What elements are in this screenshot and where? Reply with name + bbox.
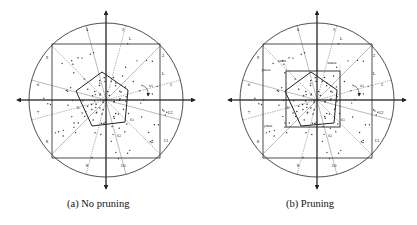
data-point xyxy=(72,100,73,101)
data-point xyxy=(315,121,317,123)
data-point xyxy=(71,60,72,61)
data-point xyxy=(77,57,78,58)
annotation-label: θ1 xyxy=(360,84,364,88)
sector-line xyxy=(86,26,106,100)
data-point xyxy=(113,101,115,103)
data-point xyxy=(102,102,104,104)
data-point xyxy=(278,105,279,106)
data-point xyxy=(326,82,328,84)
region-label: 3 xyxy=(122,27,125,32)
data-point xyxy=(146,60,147,61)
data-point xyxy=(72,64,73,65)
data-point xyxy=(66,90,67,91)
data-point xyxy=(318,91,320,93)
region-label: 2 xyxy=(162,53,165,58)
data-point xyxy=(289,122,290,123)
data-point xyxy=(365,124,366,125)
data-point xyxy=(334,108,336,110)
data-point xyxy=(347,60,348,61)
data-point xyxy=(75,132,76,133)
data-point xyxy=(115,152,116,153)
data-point xyxy=(99,85,101,87)
data-point xyxy=(58,131,59,132)
data-point xyxy=(302,157,303,158)
dashed-sector-line xyxy=(86,100,106,174)
annotation-label: S2 xyxy=(117,134,121,138)
region-label: 8 xyxy=(257,139,260,144)
data-point xyxy=(362,140,363,141)
data-point xyxy=(281,87,282,88)
data-point xyxy=(298,106,300,108)
dashed-sector-line xyxy=(297,100,317,174)
data-point xyxy=(139,90,140,91)
data-point xyxy=(373,109,374,110)
data-point xyxy=(115,85,117,87)
data-point xyxy=(43,98,44,99)
region-label: 9 xyxy=(297,163,300,168)
data-point xyxy=(125,96,126,97)
data-point xyxy=(269,131,270,132)
data-point xyxy=(111,126,112,127)
data-point xyxy=(350,90,351,91)
data-point xyxy=(87,88,89,90)
data-point xyxy=(294,78,295,79)
data-point xyxy=(336,96,337,97)
data-point xyxy=(71,116,72,117)
dashed-sector-line xyxy=(106,26,126,100)
data-point xyxy=(158,124,159,125)
data-point xyxy=(305,100,307,102)
data-point xyxy=(148,132,149,133)
data-point xyxy=(323,134,324,135)
sector-line xyxy=(297,26,317,100)
data-point xyxy=(339,113,340,114)
data-point xyxy=(357,60,358,61)
data-point xyxy=(303,95,305,97)
region-label: 12 xyxy=(378,110,384,115)
data-point xyxy=(304,52,305,53)
data-point xyxy=(109,95,111,97)
data-point xyxy=(122,75,123,76)
data-point xyxy=(284,122,285,123)
region-label: 7 xyxy=(37,110,40,115)
data-point xyxy=(322,81,323,82)
data-point xyxy=(337,123,338,124)
data-point xyxy=(359,132,360,133)
data-point xyxy=(362,142,363,143)
data-point xyxy=(338,43,339,44)
data-point xyxy=(330,99,332,101)
data-point xyxy=(125,67,126,68)
data-point xyxy=(295,116,296,117)
data-point xyxy=(336,67,337,68)
data-point xyxy=(128,113,129,114)
data-point xyxy=(310,85,312,87)
data-point xyxy=(305,91,307,93)
data-point xyxy=(113,116,115,118)
data-point xyxy=(90,54,91,55)
annotation-label: S2 xyxy=(328,134,332,138)
data-point xyxy=(369,124,370,125)
data-point xyxy=(312,123,314,125)
data-point xyxy=(120,91,122,93)
rotation-arrow xyxy=(352,85,359,96)
data-point xyxy=(292,57,293,58)
data-point xyxy=(296,111,298,113)
data-point xyxy=(310,107,312,109)
data-point xyxy=(73,126,74,127)
region-label: 12 xyxy=(167,110,173,115)
data-point xyxy=(152,61,153,62)
data-point xyxy=(62,135,63,136)
data-point xyxy=(310,82,311,83)
data-point xyxy=(140,102,141,103)
data-point xyxy=(312,113,314,115)
data-point xyxy=(93,119,95,121)
data-point xyxy=(374,110,375,111)
region-label: 5 xyxy=(46,55,49,60)
data-point xyxy=(99,107,101,109)
data-point xyxy=(152,93,153,94)
panel-no-pruning: 43L52L61712811910θ1S1S2R (a) No pruning xyxy=(0,0,210,225)
data-points xyxy=(43,43,167,159)
data-point xyxy=(101,123,103,125)
data-point xyxy=(336,86,337,87)
data-point xyxy=(304,119,306,121)
data-point xyxy=(273,135,274,136)
